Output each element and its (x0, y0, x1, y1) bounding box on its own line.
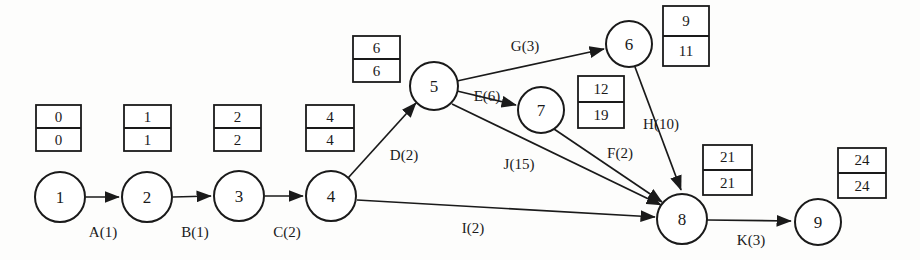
edge-I-line (357, 200, 655, 217)
time-box-earliest-3: 2 (234, 109, 242, 125)
edge-label-G: G(3) (511, 38, 539, 55)
time-box-latest-2: 1 (144, 132, 152, 148)
time-box-node-9: 24 24 (838, 148, 886, 198)
edge-label-B: B(1) (181, 224, 209, 241)
time-box-latest-9: 24 (855, 178, 871, 194)
time-box-latest-4: 4 (326, 132, 334, 148)
network-diagram: A(1) B(1) C(2) D(2) E(6) G(3) J(15) F(2)… (0, 0, 920, 260)
edge-label-F: F(2) (607, 145, 633, 162)
node-label-3: 3 (235, 187, 244, 206)
node-7[interactable]: 7 (518, 87, 564, 133)
edge-D-line (348, 103, 416, 178)
node-5[interactable]: 5 (410, 62, 458, 110)
time-box-latest-5: 6 (373, 63, 381, 79)
time-box-latest-3: 2 (234, 132, 242, 148)
node-1[interactable]: 1 (35, 172, 85, 222)
time-box-latest-6: 11 (679, 43, 693, 59)
time-box-earliest-2: 1 (144, 109, 152, 125)
node-9[interactable]: 9 (795, 199, 841, 245)
edge-label-I: I(2) (462, 220, 485, 237)
edge-K-line (707, 220, 791, 221)
edge-label-K: K(3) (737, 232, 765, 249)
time-box-earliest-4: 4 (326, 109, 334, 125)
node-label-5: 5 (430, 77, 439, 96)
time-box-earliest-7: 12 (594, 81, 609, 97)
edge-label-C: C(2) (273, 224, 301, 241)
node-4[interactable]: 4 (306, 171, 356, 221)
time-box-latest-8: 21 (720, 175, 735, 191)
node-label-8: 8 (678, 210, 687, 229)
edge-label-D: D(2) (390, 147, 418, 164)
node-label-6: 6 (625, 35, 634, 54)
time-box-latest-1: 0 (55, 132, 63, 148)
time-box-earliest-6: 9 (682, 13, 690, 29)
time-box-earliest-9: 24 (855, 152, 871, 168)
node-8[interactable]: 8 (657, 194, 707, 244)
edge-label-A: A(1) (89, 224, 117, 241)
node-label-7: 7 (537, 101, 546, 120)
time-boxes-layer: 0 0 1 1 2 2 4 4 (36, 6, 886, 198)
node-3[interactable]: 3 (214, 171, 264, 221)
time-box-earliest-8: 21 (720, 149, 735, 165)
node-label-1: 1 (56, 188, 65, 207)
node-label-2: 2 (143, 188, 152, 207)
time-box-earliest-1: 0 (55, 109, 63, 125)
edge-B-line (173, 196, 211, 197)
time-box-node-1: 0 0 (36, 105, 81, 151)
time-box-node-5: 6 6 (353, 36, 400, 82)
edge-label-H: H(10) (643, 116, 679, 133)
time-box-node-6: 9 11 (663, 6, 709, 66)
time-box-latest-7: 19 (594, 107, 609, 123)
time-box-node-2: 1 1 (124, 105, 171, 151)
edge-label-J: J(15) (504, 156, 535, 173)
edge-F-line (554, 129, 662, 202)
edge-label-E: E(6) (474, 88, 501, 105)
node-6[interactable]: 6 (606, 21, 652, 67)
time-box-node-7: 12 19 (578, 76, 624, 128)
time-box-earliest-5: 6 (373, 40, 381, 56)
node-2[interactable]: 2 (122, 172, 172, 222)
time-box-node-4: 4 4 (306, 105, 354, 151)
node-label-9: 9 (814, 213, 823, 232)
node-label-4: 4 (327, 187, 336, 206)
time-box-node-8: 21 21 (703, 145, 752, 195)
time-box-node-3: 2 2 (214, 105, 261, 151)
network-diagram-canvas: A(1) B(1) C(2) D(2) E(6) G(3) J(15) F(2)… (0, 0, 920, 260)
